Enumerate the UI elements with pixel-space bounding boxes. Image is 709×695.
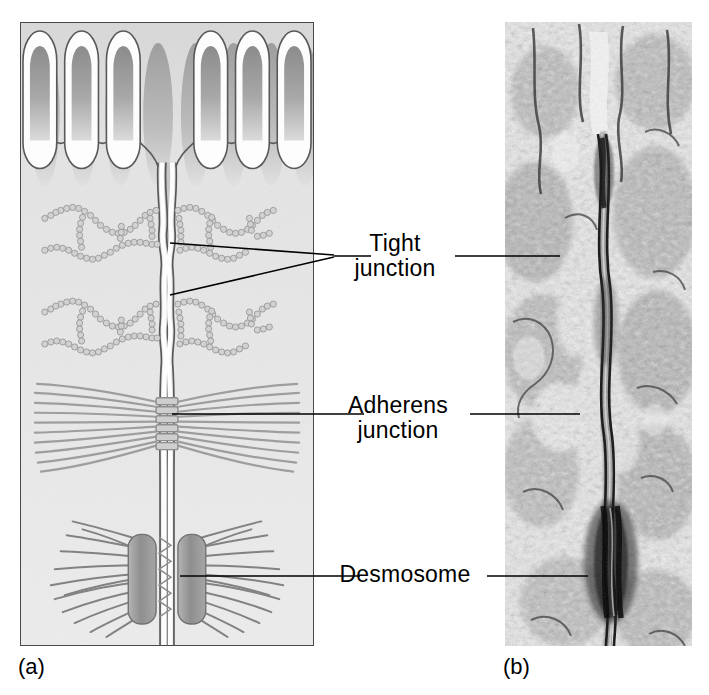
panel-a-schematic — [20, 22, 314, 646]
label-tight-junction: Tight junction — [341, 231, 449, 281]
paper-grain — [21, 23, 313, 645]
caption-panel-b: (b) — [503, 655, 530, 679]
figure-root: Tight junction Adherens junction Desmoso… — [0, 0, 709, 695]
micrograph-content — [505, 22, 692, 646]
caption-panel-a: (a) — [18, 655, 45, 679]
label-desmosome: Desmosome — [330, 562, 480, 587]
schematic-svg — [21, 23, 313, 645]
panel-b-micrograph — [505, 22, 692, 646]
label-adherens-junction: Adherens junction — [332, 393, 464, 443]
micrograph-svg — [505, 22, 692, 646]
